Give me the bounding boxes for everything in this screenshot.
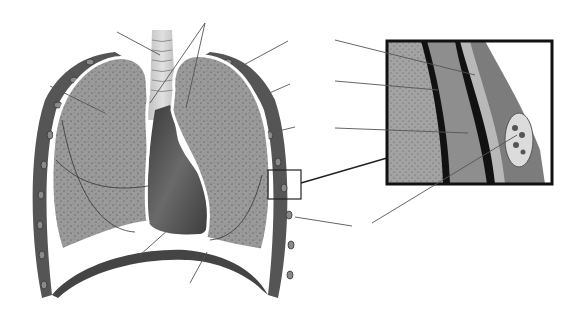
leader-rib-upper (238, 41, 288, 68)
leader-intercostal (295, 217, 352, 226)
diagram-canvas (0, 0, 581, 318)
lung-pleura-diagram (0, 0, 581, 318)
zoom-connector (301, 158, 387, 183)
inset-pleura-detail (387, 41, 552, 184)
